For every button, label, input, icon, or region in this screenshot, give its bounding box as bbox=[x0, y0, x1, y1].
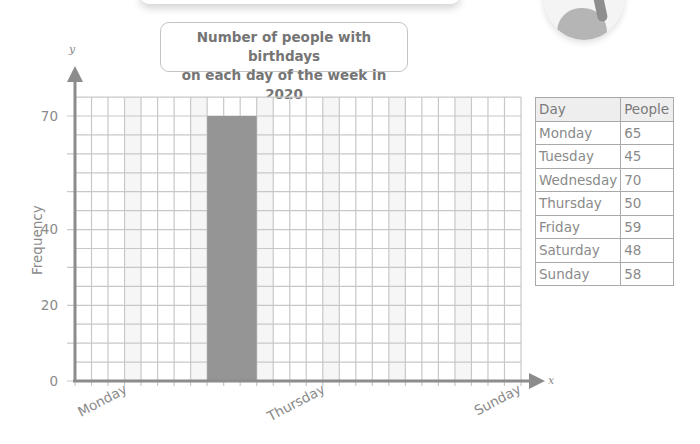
table-row: Monday65 bbox=[536, 121, 674, 145]
cell-day: Thursday bbox=[536, 192, 621, 216]
y-axis-arrow-icon bbox=[67, 66, 83, 82]
bar-wednesday bbox=[207, 116, 257, 381]
y-axis-letter: y bbox=[68, 43, 76, 56]
cell-people: 58 bbox=[621, 262, 674, 286]
data-table: Day People Monday65 Tuesday45 Wednesday7… bbox=[535, 97, 674, 286]
table-header-row: Day People bbox=[536, 98, 674, 122]
x-axis-letter: x bbox=[548, 374, 555, 387]
x-label-monday: Monday bbox=[75, 381, 130, 420]
cell-day: Wednesday bbox=[536, 168, 621, 192]
cell-people: 45 bbox=[621, 145, 674, 169]
table-row: Saturday48 bbox=[536, 239, 674, 263]
y-axis-label: Frequency bbox=[29, 205, 45, 275]
cell-day: Friday bbox=[536, 215, 621, 239]
y-tick-70: 70 bbox=[41, 108, 58, 124]
table-row: Friday59 bbox=[536, 215, 674, 239]
y-tick-20: 20 bbox=[41, 297, 58, 313]
x-label-thursday: Thursday bbox=[264, 381, 328, 425]
cell-people: 70 bbox=[621, 168, 674, 192]
chart-grid bbox=[67, 97, 521, 386]
table-row: Sunday58 bbox=[536, 262, 674, 286]
cell-people: 50 bbox=[621, 192, 674, 216]
x-label-sunday: Sunday bbox=[471, 381, 523, 419]
cell-people: 59 bbox=[621, 215, 674, 239]
header-people: People bbox=[621, 98, 674, 122]
header-day: Day bbox=[536, 98, 621, 122]
cell-people: 48 bbox=[621, 239, 674, 263]
table-row: Wednesday70 bbox=[536, 168, 674, 192]
x-axis-arrow-icon bbox=[529, 373, 545, 389]
table-row: Thursday50 bbox=[536, 192, 674, 216]
table-row: Tuesday45 bbox=[536, 145, 674, 169]
y-tick-0: 0 bbox=[49, 373, 58, 389]
cell-day: Monday bbox=[536, 121, 621, 145]
cell-day: Saturday bbox=[536, 239, 621, 263]
cell-day: Sunday bbox=[536, 262, 621, 286]
cell-people: 65 bbox=[621, 121, 674, 145]
cell-day: Tuesday bbox=[536, 145, 621, 169]
